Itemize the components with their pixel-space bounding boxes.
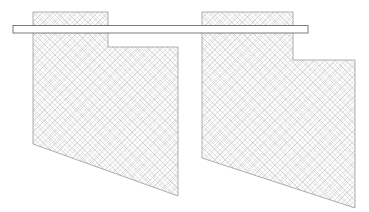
technical-drawing-svg: Sectioned Bracket Pair With Through Rail: [0, 0, 369, 212]
through-rail-bar: [13, 26, 308, 34]
rail-group: [13, 26, 308, 34]
drawing-canvas: Sectioned Bracket Pair With Through Rail: [0, 0, 369, 212]
